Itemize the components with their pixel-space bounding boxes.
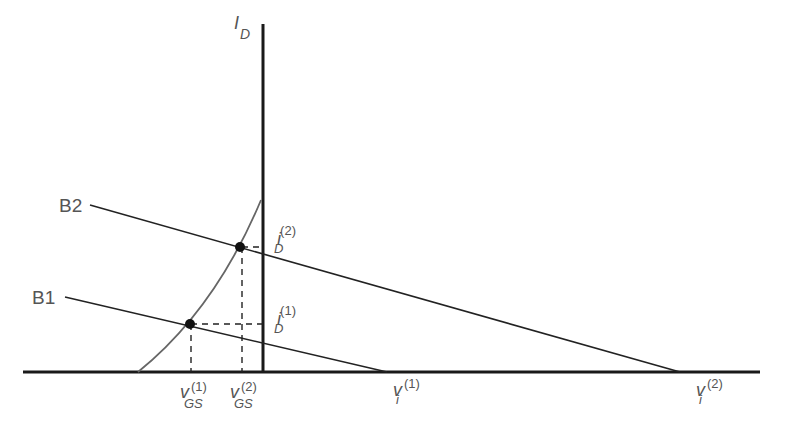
y-axis-label: ID [234,13,250,42]
label-vi1: v(1)i [393,376,420,407]
operating-point-q1 [185,319,195,329]
diagram-canvas: ID B2 B1 i(2)D i(1)D v(1)GS v(2)GS v(1)i… [0,0,788,428]
label-vgs2: v(2)GS [230,379,257,411]
diagram-svg: ID B2 B1 i(2)D i(1)D v(1)GS v(2)GS v(1)i… [0,0,788,428]
label-vi2: v(2)i [696,376,723,407]
label-vgs1: v(1)GS [180,379,207,411]
bias-label-b1: B1 [32,287,55,308]
bias-line-b2 [90,205,680,372]
bias-line-b1 [65,297,387,372]
label-id2: i(2)D [274,223,296,256]
label-id1: i(1)D [274,303,296,336]
bias-label-b2: B2 [59,195,82,216]
operating-point-q2 [235,242,245,252]
